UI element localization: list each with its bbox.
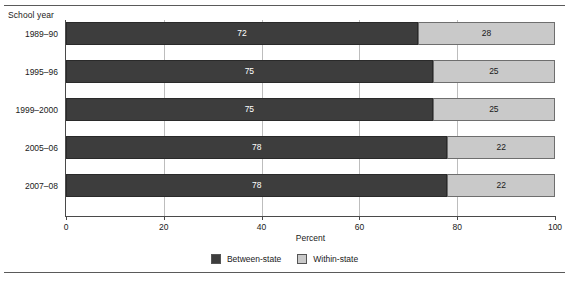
top-rule bbox=[4, 5, 565, 6]
x-tick-label: 80 bbox=[452, 222, 461, 232]
plot-area: 020406080100 1989–9072281995–9675251999–… bbox=[66, 20, 555, 216]
bar-segment-within-state: 22 bbox=[447, 136, 555, 159]
x-tick bbox=[164, 216, 165, 220]
legend-label: Within-state bbox=[313, 254, 358, 264]
x-axis-title: Percent bbox=[66, 233, 555, 243]
bar-row: 1995–967525 bbox=[66, 60, 555, 83]
bar-segment-between-state: 75 bbox=[66, 60, 433, 83]
bar-segment-within-state: 28 bbox=[418, 22, 555, 45]
bar-segment-between-state: 78 bbox=[66, 174, 447, 197]
legend-label: Between-state bbox=[227, 254, 281, 264]
x-tick-label: 100 bbox=[548, 222, 562, 232]
x-axis-line bbox=[65, 216, 555, 217]
bar-segment-between-state: 78 bbox=[66, 136, 447, 159]
x-tick bbox=[66, 216, 67, 220]
x-tick bbox=[555, 216, 556, 220]
bar-segment-within-state: 25 bbox=[433, 60, 555, 83]
bottom-rule bbox=[4, 272, 565, 273]
legend-item: Within-state bbox=[297, 254, 358, 264]
x-tick-label: 0 bbox=[64, 222, 69, 232]
legend-item: Between-state bbox=[211, 254, 281, 264]
bar-row: 1989–907228 bbox=[66, 22, 555, 45]
bar-segment-between-state: 72 bbox=[66, 22, 418, 45]
chart-figure: School year 020406080100 1989–9072281995… bbox=[0, 0, 569, 281]
bar-segment-between-state: 75 bbox=[66, 98, 433, 121]
x-tick-label: 60 bbox=[355, 222, 364, 232]
legend-swatch bbox=[211, 254, 221, 264]
x-tick-label: 20 bbox=[159, 222, 168, 232]
bar-row: 1999–20007525 bbox=[66, 98, 555, 121]
chart-legend: Between-stateWithin-state bbox=[0, 254, 569, 264]
bar-segment-within-state: 25 bbox=[433, 98, 555, 121]
bar-segment-within-state: 22 bbox=[447, 174, 555, 197]
x-tick bbox=[457, 216, 458, 220]
category-axis-title: School year bbox=[8, 10, 54, 20]
legend-swatch bbox=[297, 254, 307, 264]
x-tick bbox=[359, 216, 360, 220]
bar-row: 2007–087822 bbox=[66, 174, 555, 197]
bar-row: 2005–067822 bbox=[66, 136, 555, 159]
x-tick-label: 40 bbox=[257, 222, 266, 232]
x-tick bbox=[262, 216, 263, 220]
